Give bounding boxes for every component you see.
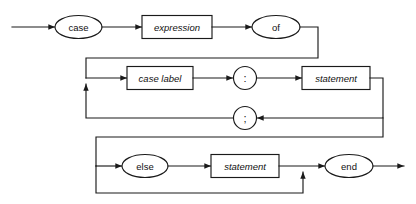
node-colon-label: : [243, 72, 246, 84]
node-statement-1-label: statement [315, 73, 357, 84]
syntax-diagram-canvas: case expression of case label : statemen… [0, 0, 416, 204]
node-else-label: else [136, 161, 153, 172]
node-case-label: case [68, 22, 88, 33]
railroad-diagram: case expression of case label : statemen… [0, 0, 416, 204]
node-statement-2-label: statement [224, 161, 266, 172]
node-end-label: end [341, 161, 357, 172]
node-of-label: of [272, 22, 280, 33]
node-case-label-text: case label [139, 73, 183, 84]
node-semicolon-label: ; [243, 112, 246, 124]
node-expression-label: expression [154, 22, 200, 33]
